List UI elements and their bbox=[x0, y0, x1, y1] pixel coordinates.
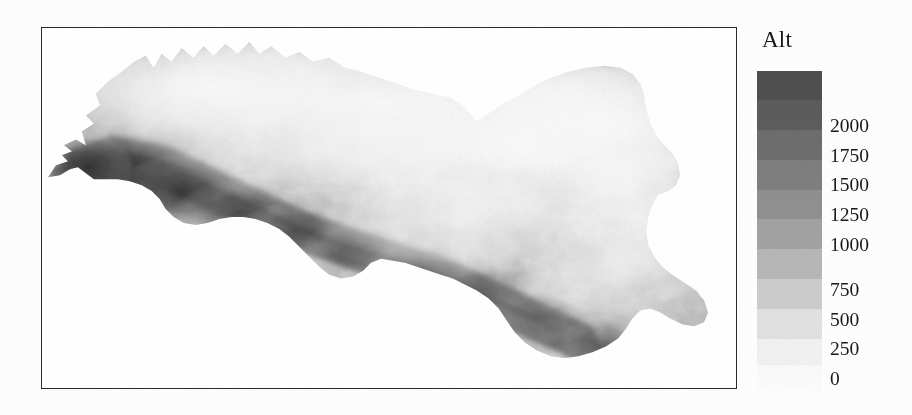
legend-tick-0: 0 bbox=[830, 369, 840, 389]
map-panel[interactable] bbox=[41, 27, 737, 389]
legend-tick-750: 750 bbox=[830, 280, 859, 300]
legend-color-bar[interactable] bbox=[757, 71, 822, 391]
legend-tick-labels: 2000 1750 1500 1250 1000 750 500 250 0 bbox=[830, 71, 910, 391]
elevation-figure: Alt 2000 1750 1500 1250 1000 750 500 250… bbox=[0, 0, 912, 415]
legend-title: Alt bbox=[762, 28, 792, 51]
legend-tick-1500: 1500 bbox=[830, 175, 869, 195]
legend-tick-500: 500 bbox=[830, 310, 859, 330]
elevation-raster[interactable] bbox=[42, 28, 736, 388]
legend-tick-1000: 1000 bbox=[830, 235, 869, 255]
legend: Alt 2000 1750 1500 1250 1000 750 500 250… bbox=[744, 24, 912, 396]
legend-tick-250: 250 bbox=[830, 339, 859, 359]
legend-tick-1250: 1250 bbox=[830, 205, 869, 225]
legend-tick-1750: 1750 bbox=[830, 146, 869, 166]
legend-tick-2000: 2000 bbox=[830, 116, 869, 136]
